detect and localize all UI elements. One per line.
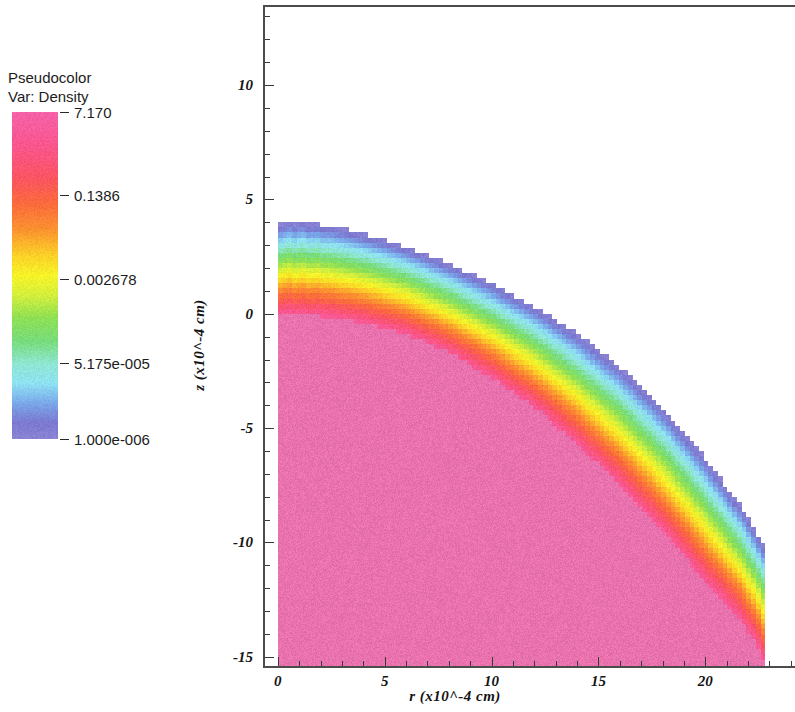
y-minor-tick (265, 405, 270, 406)
x-tick-label-0: 0 (274, 673, 282, 690)
y-major-tick (265, 85, 274, 86)
x-minor-tick (727, 661, 728, 666)
y-major-tick (265, 428, 274, 429)
y-major-tick (265, 542, 274, 543)
y-tick-label-2: 0 (246, 305, 254, 322)
y-tick-label-0: 10 (238, 77, 253, 94)
y-minor-tick (265, 291, 270, 292)
colorbar-tick-dash (60, 279, 69, 280)
y-minor-tick (265, 634, 270, 635)
y-minor-tick (265, 611, 270, 612)
x-tick-label-1: 5 (381, 673, 389, 690)
y-minor-tick (265, 520, 270, 521)
legend-panel: Pseudocolor Var: Density 7.1700.13860.00… (8, 68, 198, 442)
y-minor-tick (265, 451, 270, 452)
x-minor-tick (299, 661, 300, 666)
x-minor-tick (342, 661, 343, 666)
x-minor-tick (427, 661, 428, 666)
y-tick-label-1: 5 (246, 191, 254, 208)
y-minor-tick (265, 222, 270, 223)
x-minor-tick (577, 661, 578, 666)
x-minor-tick (406, 661, 407, 666)
x-axis-title: r (x10^-4 cm) (409, 688, 501, 705)
colorbar-tick-label: 0.1386 (74, 188, 120, 203)
y-tick-label-3: -5 (241, 420, 254, 437)
x-major-tick (385, 657, 386, 666)
x-minor-tick (641, 661, 642, 666)
plot-area (263, 5, 795, 668)
plot-frame (263, 5, 795, 668)
y-minor-tick (265, 337, 270, 338)
x-minor-tick (791, 661, 792, 666)
x-tick-label-4: 20 (698, 673, 713, 690)
colorbar-container: 7.1700.13860.0026785.175e-0051.000e-006 (8, 112, 193, 442)
colorbar-tick-label: 7.170 (74, 105, 112, 120)
y-minor-tick (265, 268, 270, 269)
y-minor-tick (265, 497, 270, 498)
colorbar-tick-label: 1.000e-006 (74, 432, 150, 447)
y-minor-tick (265, 131, 270, 132)
y-minor-tick (265, 177, 270, 178)
x-minor-tick (684, 661, 685, 666)
colorbar-tick-dash (60, 195, 69, 196)
y-tick-label-5: -15 (233, 648, 253, 665)
x-minor-tick (321, 661, 322, 666)
colorbar-tick-dash (60, 363, 69, 364)
x-minor-tick (620, 661, 621, 666)
y-minor-tick (265, 62, 270, 63)
y-minor-tick (265, 382, 270, 383)
colorbar-tick-label: 5.175e-005 (74, 356, 150, 371)
y-tick-label-4: -10 (233, 534, 253, 551)
y-minor-tick (265, 108, 270, 109)
x-minor-tick (449, 661, 450, 666)
x-tick-label-3: 15 (591, 673, 606, 690)
y-minor-tick (265, 474, 270, 475)
y-major-tick (265, 314, 274, 315)
colorbar-tick-dash (60, 439, 69, 440)
y-minor-tick (265, 565, 270, 566)
x-minor-tick (769, 661, 770, 666)
x-major-tick (705, 657, 706, 666)
y-minor-tick (265, 245, 270, 246)
y-major-tick (265, 657, 274, 658)
x-minor-tick (363, 661, 364, 666)
x-major-tick (278, 657, 279, 666)
x-minor-tick (534, 661, 535, 666)
y-axis-title: z (x10^-4 cm) (191, 299, 208, 391)
x-minor-tick (513, 661, 514, 666)
x-minor-tick (470, 661, 471, 666)
x-minor-tick (663, 661, 664, 666)
y-minor-tick (265, 588, 270, 589)
x-major-tick (598, 657, 599, 666)
colorbar-tick-label: 0.002678 (74, 272, 137, 287)
x-minor-tick (556, 661, 557, 666)
colorbar-tick-dash (60, 112, 69, 113)
y-minor-tick (265, 360, 270, 361)
x-minor-tick (748, 661, 749, 666)
y-minor-tick (265, 154, 270, 155)
y-minor-tick (265, 16, 270, 17)
legend-title-plot-type: Pseudocolor (8, 68, 198, 87)
x-major-tick (492, 657, 493, 666)
y-minor-tick (265, 39, 270, 40)
colorbar-gradient (12, 112, 58, 439)
y-major-tick (265, 199, 274, 200)
